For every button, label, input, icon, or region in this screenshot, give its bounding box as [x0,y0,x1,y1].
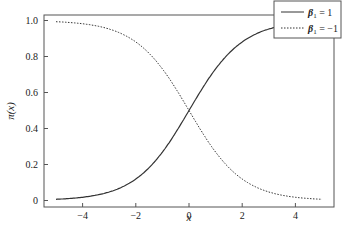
x-tick-label: −2 [130,210,141,221]
data-series [56,22,322,200]
logistic-chart: −4−2024 00.20.40.60.81.0 x π(x) β1 = 1β1… [0,0,342,245]
y-tick-label: 0 [33,195,38,206]
x-tick-label: 4 [293,210,298,221]
y-axis-ticks: 00.20.40.60.81.0 [26,15,49,206]
y-tick-label: 0.4 [26,123,39,134]
y-tick-label: 0.6 [26,87,39,98]
x-axis-label: x [186,211,192,223]
y-tick-label: 0.2 [26,159,39,170]
series-beta-neg1-line [56,22,322,200]
y-axis-label: π(x) [4,102,17,120]
y-tick-label: 1.0 [26,15,39,26]
y-tick-label: 0.8 [26,51,39,62]
x-tick-label: 2 [240,210,245,221]
legend: β1 = 1β1 = −1 [274,1,341,38]
x-tick-label: −4 [77,210,88,221]
